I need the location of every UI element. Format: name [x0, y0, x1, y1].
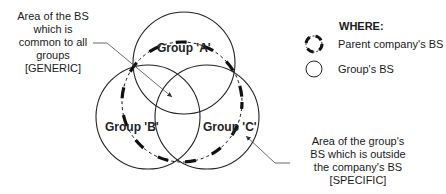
- generic-line-5: [GENERIC]: [4, 62, 102, 75]
- legend-label-parent: Parent company's BS: [338, 38, 443, 50]
- dashed-circle-icon: [304, 34, 324, 54]
- group-a-label: Group 'A': [157, 41, 211, 55]
- generic-line-1: Area of the BS: [4, 10, 102, 23]
- group-b-label: Group 'B': [105, 120, 159, 134]
- parent-company-circle-heavy: [122, 42, 242, 162]
- specific-line-1: Area of the group's: [294, 135, 422, 148]
- generic-line-2: which is: [4, 23, 102, 36]
- specific-line-3: the company's BS: [294, 161, 422, 174]
- specific-line-4: [SPECIFIC]: [294, 174, 422, 187]
- generic-line-3: common to all: [4, 36, 102, 49]
- specific-line-2: BS which is outside: [294, 148, 422, 161]
- group-c-label: Group 'C': [203, 120, 257, 134]
- group-a-circle: [133, 12, 235, 114]
- legend-item-group: Group's BS: [304, 59, 394, 79]
- specific-leader-line: [246, 136, 290, 163]
- legend-item-parent: Parent company's BS: [304, 34, 443, 54]
- generic-line-4: groups: [4, 49, 102, 62]
- specific-area-annotation: Area of the group's BS which is outside …: [294, 135, 422, 187]
- group-c-circle: [155, 65, 259, 169]
- group-b-circle: [96, 65, 200, 169]
- legend-title: WHERE:: [339, 20, 384, 32]
- legend-label-group: Group's BS: [338, 63, 394, 75]
- generic-area-annotation: Area of the BS which is common to all gr…: [4, 10, 102, 75]
- circle-icon: [304, 59, 324, 79]
